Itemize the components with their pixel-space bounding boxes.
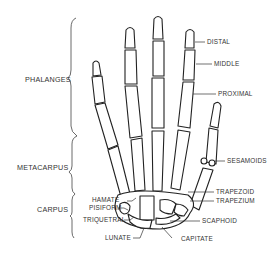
- label-distal: DISTAL: [207, 39, 230, 45]
- label-lunate: LUNATE: [105, 235, 131, 241]
- label-pisiform: PISIFORM: [89, 205, 122, 211]
- label-metacarpus: METACARPUS: [17, 164, 68, 171]
- group-braces: [68, 18, 77, 238]
- label-scaphoid: SCAPHOID: [202, 218, 237, 224]
- label-middle: MIDDLE: [214, 61, 239, 67]
- ring-finger-bones: [125, 28, 145, 192]
- label-hamate: HAMATE: [92, 197, 119, 203]
- label-trapezium: TRAPEZIUM: [216, 198, 255, 204]
- label-capitate: CAPITATE: [181, 236, 213, 242]
- label-proximal: PROXIMAL: [218, 91, 253, 97]
- middle-finger-bones: [152, 17, 164, 192]
- hand-bone-diagram: PHALANGES METACARPUS CARPUS DISTAL MIDDL…: [0, 0, 278, 260]
- label-phalanges: PHALANGES: [25, 76, 71, 83]
- carpal-bones: [115, 191, 194, 229]
- little-finger-bones: [92, 61, 130, 197]
- label-sesamoids: SESAMOIDS: [227, 158, 267, 164]
- index-finger-bones: [171, 30, 195, 191]
- label-trapezoid: TRAPEZOID: [216, 189, 254, 195]
- metacarpus-brace: [69, 136, 77, 194]
- label-carpus: CARPUS: [37, 206, 68, 213]
- carpus-brace: [70, 194, 75, 238]
- label-triquetral: TRIQUETRAL: [83, 217, 125, 223]
